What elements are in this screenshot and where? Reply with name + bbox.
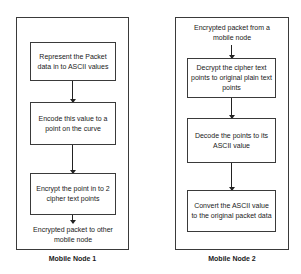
node2-arrow-0 bbox=[231, 45, 232, 58]
node1-step-3-text: Encrypt the point in to 2 cipher text po… bbox=[34, 184, 112, 204]
node2-step-decode: Decode the points to its ASCII value bbox=[187, 118, 276, 163]
node1-step-encode-point: Encode this value to a point on the curv… bbox=[30, 102, 116, 145]
node1-step-encrypt: Encrypt the point in to 2 cipher text po… bbox=[30, 173, 116, 215]
node2-arrow-2 bbox=[231, 163, 232, 190]
node1-arrow-3 bbox=[72, 215, 73, 223]
node2-input-text: Encrypted packet from a mobile node bbox=[190, 23, 274, 43]
node2-arrow-1 bbox=[231, 98, 232, 118]
node1-step-ascii-representation: Represent the Packet data in to ASCII va… bbox=[30, 42, 116, 81]
node2-step-convert: Convert the ASCII value to the original … bbox=[187, 190, 276, 232]
node1-step-1-text: Represent the Packet data in to ASCII va… bbox=[34, 52, 112, 72]
node1-output-text: Encrypted packet to other mobile node bbox=[32, 225, 114, 245]
node2-step-decrypt: Decrypt the cipher text points to origin… bbox=[187, 58, 276, 98]
node2-step-3-text: Convert the ASCII value to the original … bbox=[191, 201, 272, 221]
node1-arrow-2 bbox=[72, 145, 73, 173]
node1-step-2-text: Encode this value to a point on the curv… bbox=[34, 114, 112, 134]
node1-arrow-1 bbox=[72, 81, 73, 102]
mobile-node-1-label: Mobile Node 1 bbox=[16, 255, 129, 262]
node2-step-1-text: Decrypt the cipher text points to origin… bbox=[191, 63, 272, 93]
node2-step-2-text: Decode the points to its ASCII value bbox=[191, 131, 272, 151]
mobile-node-2-label: Mobile Node 2 bbox=[175, 255, 289, 262]
